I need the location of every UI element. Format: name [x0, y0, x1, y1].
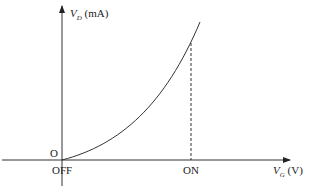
x-symbol: V [273, 164, 280, 176]
x-subscript: G [280, 171, 285, 179]
y-symbol: V [70, 7, 77, 19]
origin-label: O [50, 147, 58, 159]
transfer-characteristic-plot [0, 0, 314, 187]
y-subscript: D [77, 14, 82, 22]
x-unit: (V) [288, 164, 303, 176]
tick-off: OFF [52, 164, 72, 176]
tick-on: ON [183, 164, 199, 176]
y-unit: (mA) [85, 7, 109, 19]
curve [62, 22, 200, 160]
y-axis-label: VD (mA) [70, 7, 108, 22]
x-axis-label: VG (V) [273, 164, 303, 179]
